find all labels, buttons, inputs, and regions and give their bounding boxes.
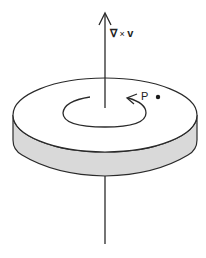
curl-diagram <box>0 0 206 258</box>
curl-label: ∇×v <box>110 28 134 39</box>
point-p-label: P <box>141 91 148 102</box>
cross-operator: × <box>120 29 126 39</box>
point-p-dot <box>156 95 160 99</box>
velocity-vector-symbol: v <box>127 27 134 39</box>
nabla-symbol: ∇ <box>110 27 118 39</box>
